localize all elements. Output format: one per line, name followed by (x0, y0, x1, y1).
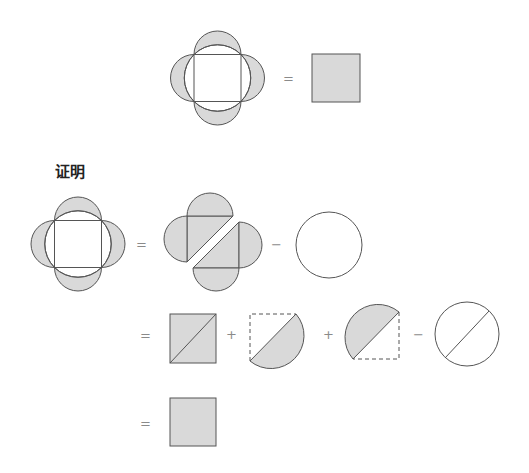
equals-sign: = (136, 238, 147, 251)
plus-sign: + (226, 328, 237, 341)
minus-sign: − (413, 328, 424, 341)
equals-sign: = (283, 72, 294, 85)
minus-sign: − (271, 238, 282, 251)
half-disc-upper-left (345, 304, 399, 359)
proof-title: 证明 (55, 160, 85, 181)
equals-sign: = (140, 329, 151, 342)
shaded-square-top (312, 54, 360, 102)
plus-sign: + (323, 328, 334, 341)
lune-figure-proof (31, 197, 125, 291)
shaded-square-result (170, 398, 216, 446)
half-disc-lower-right (250, 314, 304, 369)
lune-figure-top (171, 31, 265, 125)
diagram-canvas (0, 0, 529, 473)
circle-with-diameter (435, 302, 499, 366)
circle-subtracted (296, 212, 362, 278)
equals-sign: = (140, 417, 151, 430)
shaded-square-diagonal (170, 314, 216, 363)
